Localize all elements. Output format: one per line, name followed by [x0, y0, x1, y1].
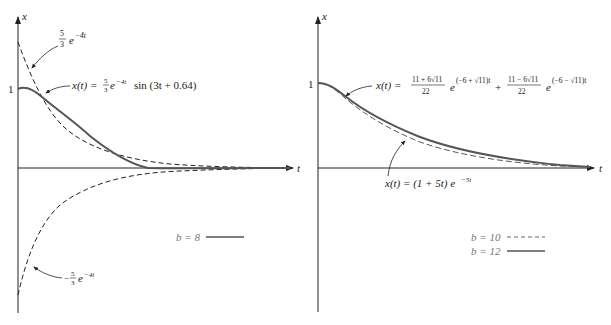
left-upper-envelope-curve [18, 42, 290, 168]
legend-label-b12: b = 12 [471, 245, 501, 257]
svg-text:11 − 6√11: 11 − 6√11 [508, 75, 539, 84]
left-axis-label-t: t [297, 162, 301, 174]
svg-text:−4t: −4t [84, 271, 95, 279]
svg-text:−5t: −5t [461, 176, 472, 184]
left-chart: x t 1 5 3 e −4t x(t) = 5 3 e −4t sin (3t… [8, 10, 301, 313]
left-tick-one: 1 [8, 83, 14, 95]
right-axis-label-x: x [321, 10, 327, 22]
svg-text:−4t: −4t [116, 78, 127, 86]
svg-text:3: 3 [104, 86, 108, 94]
svg-text:5: 5 [104, 77, 108, 85]
svg-text:x(t) =: x(t) = [375, 79, 401, 92]
svg-text:(−6 + √11)t: (−6 + √11)t [456, 76, 491, 85]
svg-text:sin (3t + 0.64): sin (3t + 0.64) [134, 79, 197, 92]
right-axis-label-t: t [599, 162, 603, 174]
svg-text:e: e [78, 272, 83, 284]
right-legend: b = 10 b = 12 [471, 231, 545, 257]
left-annotation-upper-envelope: 5 3 e −4t [32, 29, 87, 68]
svg-text:+: + [495, 81, 501, 93]
svg-text:x(t) = (1 + 5t) e: x(t) = (1 + 5t) e [384, 177, 455, 190]
legend-label-b10: b = 10 [471, 231, 501, 243]
left-annotation-solution: x(t) = 5 3 e −4t sin (3t + 0.64) [46, 77, 197, 94]
svg-text:5: 5 [60, 29, 64, 38]
right-curve-b12 [318, 83, 590, 167]
left-legend: b = 8 [176, 231, 244, 243]
svg-text:e: e [110, 79, 115, 91]
left-lower-envelope-curve [18, 168, 290, 295]
svg-text:5: 5 [71, 270, 75, 278]
svg-text:−: − [64, 273, 69, 283]
svg-text:e: e [546, 81, 551, 93]
right-curve-b10 [318, 83, 590, 167]
svg-text:(−6 − √11)t: (−6 − √11)t [552, 76, 587, 85]
svg-text:−4t: −4t [75, 31, 87, 40]
figure: x t 1 5 3 e −4t x(t) = 5 3 e −4t sin (3t… [0, 0, 611, 325]
svg-text:11 + 6√11: 11 + 6√11 [412, 75, 443, 84]
left-solution-curve [18, 88, 290, 169]
svg-text:3: 3 [60, 40, 64, 49]
svg-text:22: 22 [422, 87, 430, 96]
svg-text:e: e [450, 81, 455, 93]
left-axis-label-x: x [21, 10, 27, 22]
svg-text:3: 3 [71, 279, 75, 287]
svg-text:x(t) =: x(t) = [71, 79, 97, 92]
legend-label-b8: b = 8 [176, 231, 200, 243]
right-chart: x t 1 x(t) = 11 + 6√11 22 e (−6 + √11)t … [308, 10, 603, 312]
svg-text:22: 22 [518, 87, 526, 96]
right-annotation-b12-formula: x(t) = 11 + 6√11 22 e (−6 + √11)t + 11 −… [346, 75, 587, 96]
svg-text:e: e [69, 34, 74, 46]
right-tick-one: 1 [308, 78, 314, 90]
left-annotation-lower-envelope: − 5 3 e −4t [34, 267, 95, 287]
